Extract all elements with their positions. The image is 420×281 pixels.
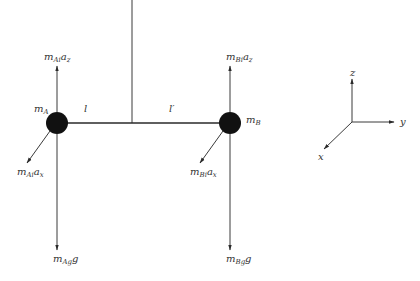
mass-b-up-force-label: mBiaz xyxy=(226,51,253,64)
length-left-label: l xyxy=(84,103,87,114)
mass-b-group: mB mBiaz mBiax mBgg xyxy=(190,51,261,266)
coordinate-axes: z y x xyxy=(318,67,406,162)
mass-a-diag-arrow xyxy=(27,131,50,163)
force-diagram: l l′ mA mAiaz mAiax mAgg mB mBiaz xyxy=(0,0,420,281)
mass-a-down-force-label: mAgg xyxy=(53,253,78,266)
mass-a-ball xyxy=(46,112,68,134)
x-axis-label: x xyxy=(318,151,324,162)
z-axis-label: z xyxy=(349,67,356,78)
length-right-label: l′ xyxy=(169,103,175,114)
mass-a-up-force-label: mAiaz xyxy=(44,51,71,64)
mass-a-label: mA xyxy=(34,103,49,116)
mass-a-group: mA mAiaz mAiax mAgg xyxy=(17,51,78,266)
mass-b-label: mB xyxy=(246,114,261,127)
y-axis-label: y xyxy=(399,116,406,127)
x-axis-arrow xyxy=(324,122,352,149)
mass-b-down-force-label: mBgg xyxy=(226,253,252,266)
mass-b-diag-force-label: mBiax xyxy=(190,166,217,179)
mass-b-ball xyxy=(219,112,241,134)
mass-a-diag-force-label: mAiax xyxy=(17,166,44,179)
mass-b-diag-arrow xyxy=(200,131,223,163)
